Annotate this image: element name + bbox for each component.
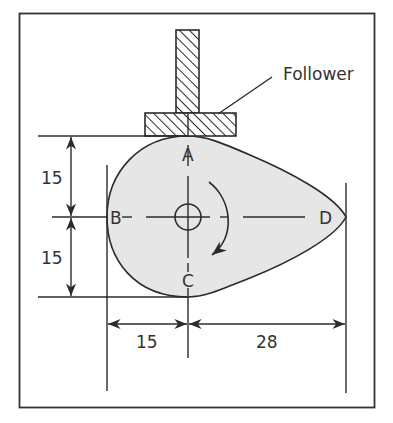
right-horizontal-dimension-label: 28 xyxy=(256,332,278,352)
cam-follower-diagram: Follower 15 15 15 28 A B C D xyxy=(0,0,393,423)
point-b-label: B xyxy=(110,208,122,228)
upper-vertical-dimension-label: 15 xyxy=(41,168,63,188)
point-a-label: A xyxy=(182,145,194,165)
follower-leader-line xyxy=(218,77,272,114)
follower-plate xyxy=(145,113,236,136)
lower-vertical-dimension-label: 15 xyxy=(41,248,63,268)
point-c-label: C xyxy=(182,271,194,291)
left-horizontal-dimension-label: 15 xyxy=(136,332,158,352)
point-d-label: D xyxy=(319,208,332,228)
follower-stem xyxy=(176,30,199,113)
follower-label: Follower xyxy=(283,64,354,84)
